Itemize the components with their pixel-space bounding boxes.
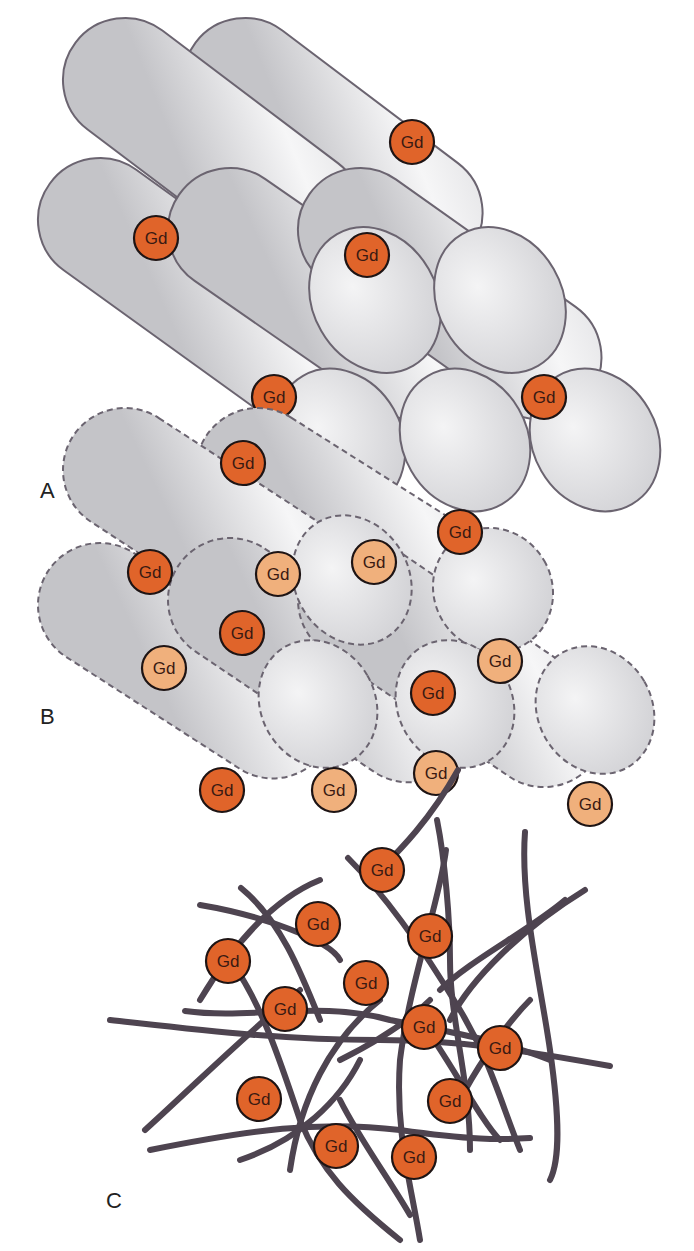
svg-text:Gd: Gd [422,684,445,703]
gd-ion-surface: Gd [134,216,178,260]
gd-ion-surface: Gd [314,1124,358,1168]
gd-ion-surface: Gd [296,902,340,946]
svg-text:Gd: Gd [401,133,424,152]
gd-ion-surface: Gd [345,233,389,277]
gd-ion-surface: Gd [360,848,404,892]
gd-ion-internal: Gd [414,751,458,795]
svg-text:Gd: Gd [425,764,448,783]
gd-ion-surface: Gd [220,611,264,655]
gd-ion-surface: Gd [128,550,172,594]
gd-ion-surface: Gd [522,375,566,419]
svg-text:Gd: Gd [231,624,254,643]
svg-text:Gd: Gd [371,861,394,880]
svg-text:Gd: Gd [139,563,162,582]
svg-text:Gd: Gd [248,1090,271,1109]
gd-ion-surface: Gd [428,1079,472,1123]
svg-text:Gd: Gd [325,1137,348,1156]
gd-ion-surface: Gd [390,120,434,164]
svg-text:Gd: Gd [413,1018,436,1037]
svg-text:Gd: Gd [419,927,442,946]
gd-ion-surface: Gd [392,1135,436,1179]
svg-text:Gd: Gd [439,1092,462,1111]
gadolinium-nanostructure-diagram: GdGdGdGdGd GdGdGdGdGdGdGdGdGdGdGdGdGd Gd… [0,0,694,1251]
svg-text:Gd: Gd [403,1148,426,1167]
gd-ion-surface: Gd [408,914,452,958]
gd-ion-internal: Gd [478,639,522,683]
gd-ion-surface: Gd [344,961,388,1005]
svg-text:Gd: Gd [267,565,290,584]
panel-label-b: B [40,704,55,730]
svg-text:Gd: Gd [489,1039,512,1058]
svg-text:Gd: Gd [449,523,472,542]
gd-ion-internal: Gd [142,646,186,690]
panel-label-c: C [106,1188,122,1214]
svg-text:Gd: Gd [232,454,255,473]
gd-ion-surface: Gd [478,1026,522,1070]
svg-text:Gd: Gd [274,1000,297,1019]
svg-text:Gd: Gd [579,795,602,814]
gd-ion-internal: Gd [352,540,396,584]
gd-ion-internal: Gd [312,768,356,812]
svg-text:Gd: Gd [356,246,379,265]
svg-text:Gd: Gd [263,388,286,407]
panel-label-a: A [40,478,55,504]
svg-text:Gd: Gd [363,553,386,572]
gd-ion-surface: Gd [263,987,307,1031]
polymer-fiber [524,832,557,1180]
gd-ion-surface: Gd [200,768,244,812]
figure-stage: GdGdGdGdGd GdGdGdGdGdGdGdGdGdGdGdGdGd Gd… [0,0,694,1251]
svg-text:Gd: Gd [489,652,512,671]
gd-ion-surface: Gd [206,939,250,983]
svg-text:Gd: Gd [145,229,168,248]
gd-ion-surface: Gd [402,1005,446,1049]
gd-ion-surface: Gd [221,441,265,485]
gd-ion-surface: Gd [438,510,482,554]
svg-text:Gd: Gd [323,781,346,800]
panel-c-fiber-network: GdGdGdGdGdGdGdGdGdGdGdGd [110,770,610,1240]
gd-ion-internal: Gd [568,782,612,826]
svg-text:Gd: Gd [307,915,330,934]
svg-text:Gd: Gd [153,659,176,678]
gd-ion-internal: Gd [256,552,300,596]
polymer-fiber [450,890,585,1020]
svg-text:Gd: Gd [211,781,234,800]
svg-text:Gd: Gd [533,388,556,407]
gd-ion-surface: Gd [237,1077,281,1121]
svg-text:Gd: Gd [355,974,378,993]
gd-ion-surface: Gd [411,671,455,715]
svg-text:Gd: Gd [217,952,240,971]
